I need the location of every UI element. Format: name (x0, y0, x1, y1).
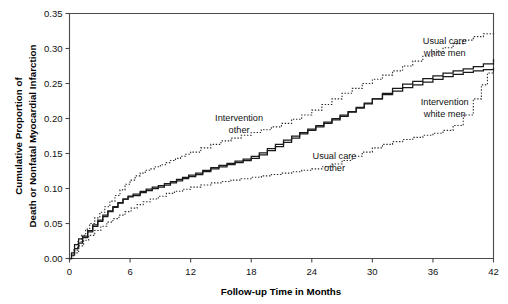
annotation-intervention-white-men: Interventionwhite men (421, 97, 469, 119)
annotation-line2: other (229, 125, 250, 135)
annotation-usual-care-white-men: Usual carewhite men (423, 36, 467, 58)
chart-figure: 0.000.050.100.150.200.250.300.35 0612182… (0, 0, 508, 304)
annotation-line1: Intervention (421, 97, 469, 107)
y-tick-label: 0.10 (44, 183, 63, 194)
x-tick-label: 0 (67, 266, 72, 277)
y-tick-label: 0.20 (44, 113, 63, 124)
x-tick-label: 6 (127, 266, 132, 277)
x-tick-label: 42 (488, 266, 499, 277)
y-tick-label: 0.25 (44, 78, 63, 89)
x-tick-label: 24 (306, 266, 317, 277)
annotation-line1: Intervention (215, 113, 263, 123)
y-tick-label: 0.15 (44, 148, 63, 159)
y-tick-label: 0.35 (44, 8, 63, 19)
annotation-line2: white men (423, 48, 466, 58)
x-tick-label: 36 (428, 266, 439, 277)
y-axis-title-line2: Death or Nonfatal Myocardial Infarction (27, 45, 38, 228)
annotation-line2: white men (423, 109, 466, 119)
x-axis-title: Follow-up Time in Months (221, 286, 342, 297)
annotation-line1: Usual care (423, 36, 467, 46)
y-axis-title-line1: Cumulative Proportion of (13, 76, 24, 194)
y-tick-label: 0.05 (44, 218, 63, 229)
annotation-line1: Usual care (313, 151, 357, 161)
x-tick-label: 18 (246, 266, 257, 277)
cumulative-incidence-chart: 0.000.050.100.150.200.250.300.35 0612182… (0, 0, 508, 304)
y-tick-label: 0.30 (44, 43, 63, 54)
x-tick-label: 30 (367, 266, 378, 277)
x-tick-label: 12 (185, 266, 196, 277)
annotation-line2: other (324, 163, 345, 173)
y-tick-label: 0.00 (44, 253, 63, 264)
